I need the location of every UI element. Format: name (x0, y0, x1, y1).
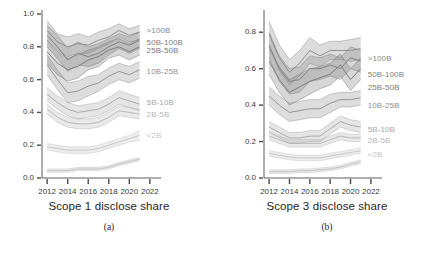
y-tick-label: 0.0 (228, 173, 256, 182)
series-label-2b-5b: 2B-5B (147, 110, 170, 119)
figure-two-panel-chart: Scope 1 disclose share (a) 0.00.20.40.60… (0, 0, 436, 253)
y-tick-label: 0.6 (228, 64, 256, 73)
subfigure-label-b: (b) (218, 222, 436, 232)
x-tick-label: 2022 (356, 187, 386, 196)
series-label-25b-50b: 25B-50B (147, 46, 179, 55)
series-label-100b: >100B (368, 54, 392, 63)
plot-scope-1 (0, 0, 218, 200)
series-label-25b-50b: 25B-50B (368, 83, 400, 92)
axis-caption-b: Scope 3 disclose share (218, 200, 436, 212)
x-tick-label: 2022 (135, 187, 165, 196)
series-label-10b-25b: 10B-25B (147, 67, 179, 76)
series-label-10b-25b: 10B-25B (368, 101, 400, 110)
panel-scope-1: Scope 1 disclose share (a) 0.00.20.40.60… (0, 0, 218, 253)
series-label-2b-5b: 2B-5B (368, 136, 391, 145)
y-tick-label: 0.8 (6, 42, 34, 51)
series-label-2b: <2B (147, 131, 162, 140)
series-label-100b: >100B (147, 26, 171, 35)
y-tick-label: 0.8 (228, 27, 256, 36)
y-tick-label: 0.4 (228, 100, 256, 109)
series-label-2b: <2B (368, 150, 383, 159)
y-tick-label: 0.4 (6, 107, 34, 116)
y-tick-label: 0.2 (6, 140, 34, 149)
y-tick-label: 0.2 (228, 137, 256, 146)
series-label-5b-10b: 5B-10B (147, 98, 174, 107)
y-tick-label: 0.0 (6, 173, 34, 182)
panel-scope-3: Scope 3 disclose share (b) 0.00.20.40.60… (218, 0, 436, 253)
y-tick-label: 0.6 (6, 75, 34, 84)
axis-caption-a: Scope 1 disclose share (0, 200, 218, 212)
y-tick-label: 1.0 (6, 9, 34, 18)
subfigure-label-a: (a) (0, 222, 218, 232)
series-label-50b-100b: 50B-100B (368, 70, 404, 79)
series-label-5b-10b: 5B-10B (368, 125, 395, 134)
